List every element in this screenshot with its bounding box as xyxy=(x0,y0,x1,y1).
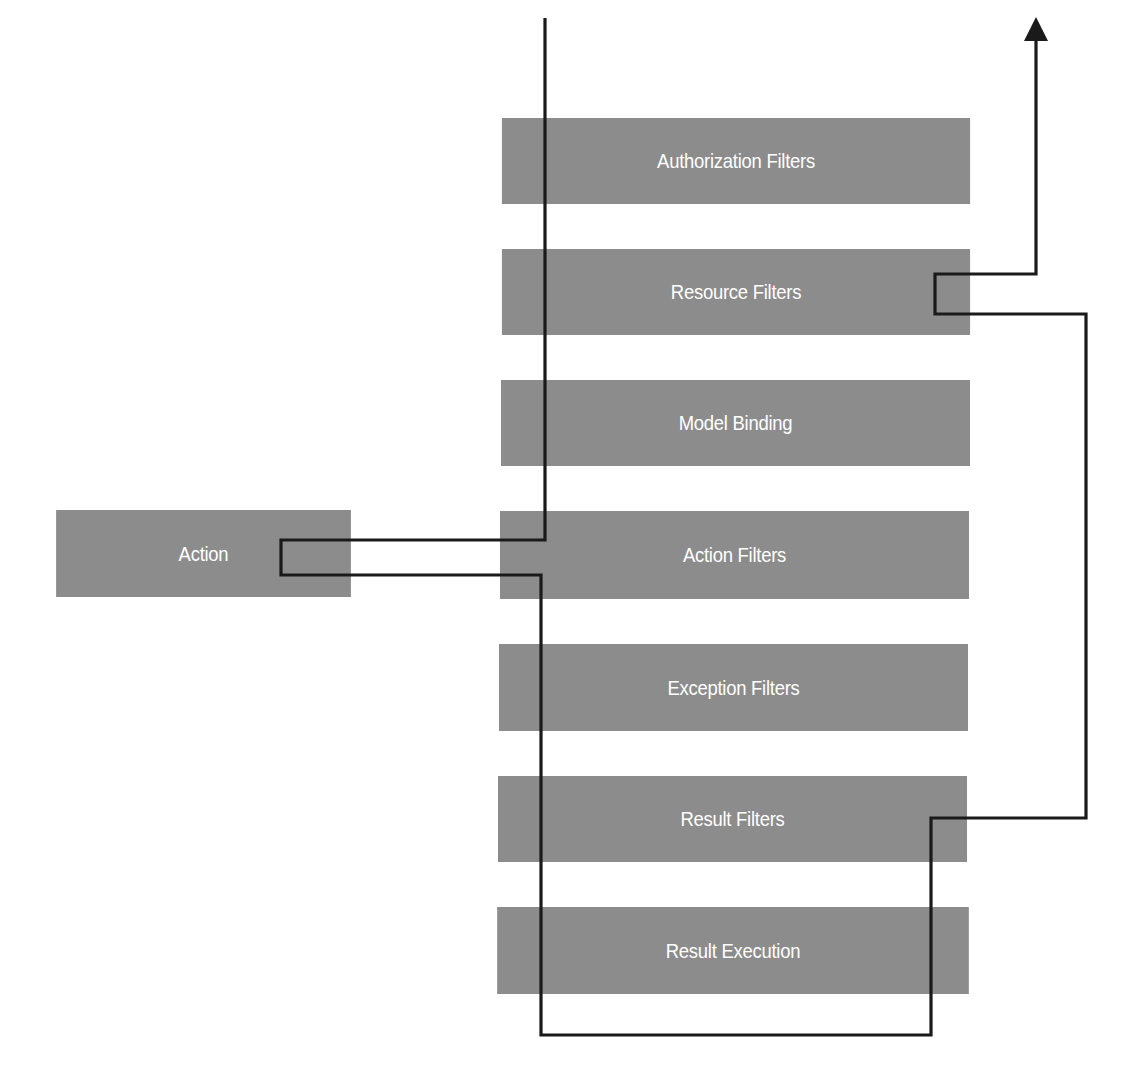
action-label: Action xyxy=(179,542,229,566)
stage-result-execution: Result Execution xyxy=(497,907,969,994)
stage-authorization-filters: Authorization Filters xyxy=(502,118,970,204)
stage-label: Resource Filters xyxy=(671,280,801,304)
stage-action-filters: Action Filters xyxy=(500,511,969,599)
stage-label: Exception Filters xyxy=(667,676,799,700)
filter-pipeline-diagram: Authorization Filters Resource Filters M… xyxy=(0,0,1130,1074)
action-node: Action xyxy=(56,510,351,597)
stage-exception-filters: Exception Filters xyxy=(499,644,968,731)
arrow-up-icon xyxy=(1024,17,1048,41)
stage-result-filters: Result Filters xyxy=(498,776,967,862)
stage-label: Result Execution xyxy=(666,939,800,963)
stage-label: Result Filters xyxy=(680,807,784,831)
stage-resource-filters: Resource Filters xyxy=(502,249,970,335)
stage-label: Authorization Filters xyxy=(657,149,815,173)
stage-label: Model Binding xyxy=(679,411,793,435)
stage-model-binding: Model Binding xyxy=(501,380,970,466)
stage-label: Action Filters xyxy=(683,543,786,567)
